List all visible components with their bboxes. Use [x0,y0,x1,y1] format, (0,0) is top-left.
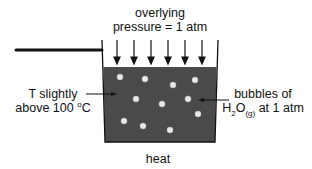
pressure-arrows [114,40,205,64]
pressure-text: pressure = 1 atm [110,20,210,34]
formula-o: O [236,101,246,115]
temperature-label: T slightly above 100 oC [14,87,92,115]
bubbles-line1: bubbles of [220,87,306,101]
temperature-value: above 100 [15,101,77,115]
bubbles-line2: H2O(g) at 1 atm [220,101,306,115]
overlying-text: overlying [110,6,210,20]
temperature-line2: above 100 oC [14,101,92,115]
overlying-pressure-label: overlying pressure = 1 atm [110,6,210,34]
bubbles-label: bubbles of H2O(g) at 1 atm [220,87,306,115]
celsius-unit: C [82,101,91,115]
heat-label: heat [138,152,178,166]
formula-pressure: at 1 atm [255,101,304,115]
formula-phase: (g) [245,109,255,118]
formula-h: H [222,101,231,115]
